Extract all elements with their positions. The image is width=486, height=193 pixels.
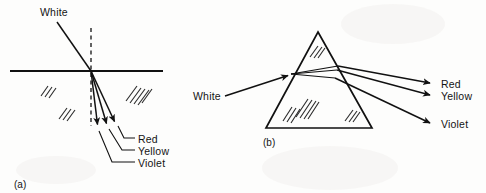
optics-figure: White Red Yellow Violet (a) [0,0,486,193]
internal-ray-violet-b [291,74,335,78]
panel-caption-a: (a) [14,179,26,190]
leader-line-violet-a [99,131,135,162]
label-red-a: Red [138,133,158,145]
incident-white-ray-b [225,76,288,97]
emergent-ray-violet-b [335,78,430,123]
paper-texture [16,4,445,190]
label-yellow-a: Yellow [138,145,169,157]
label-violet-a: Violet [138,157,165,169]
label-yellow-b: Yellow [441,90,472,102]
incident-white-ray-a [57,22,91,71]
panel-caption-b: (b) [263,137,275,148]
label-violet-b: Violet [441,118,468,130]
leader-line-yellow-a [109,129,135,150]
panel-b: White Red Yellow Violet (b) [193,32,472,148]
refracted-ray-yellow-a [91,71,107,124]
leader-line-red-a [118,126,135,138]
prism-triangle [266,32,372,128]
label-white-a: White [40,6,68,18]
label-red-b: Red [441,78,461,90]
dispersion-diagram-svg: White Red Yellow Violet (a) [0,0,486,193]
label-white-b: White [193,90,221,102]
